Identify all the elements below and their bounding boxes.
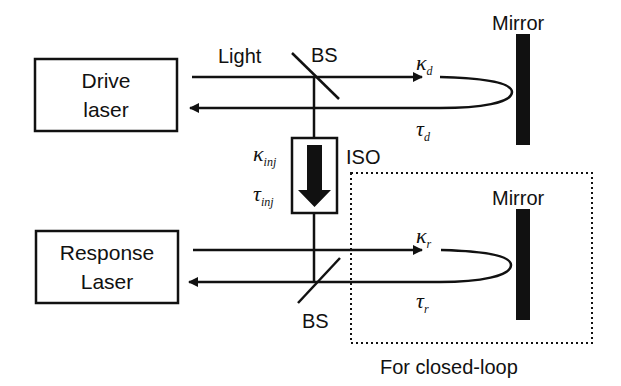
mirror-bottom-label: Mirror [492, 188, 544, 208]
response-laser-label-line2: Laser [36, 267, 178, 296]
bs-bottom-label: BS [302, 311, 329, 331]
mirror-top [516, 34, 530, 145]
kappa-d-label: κd [416, 52, 433, 77]
tau-r-label: τr [416, 290, 429, 315]
tau-d-label: τd [416, 118, 430, 143]
mirror-bottom [516, 209, 530, 320]
response-laser-label-line1: Response [36, 238, 178, 267]
drive-feedback-loop [190, 77, 512, 108]
drive-laser-label-line2: laser [35, 95, 177, 124]
tau-inj-label: τinj [253, 183, 274, 208]
beam-splitter-bottom [298, 258, 340, 303]
isolator-arrow-icon [298, 145, 331, 207]
optical-diagram: Drive laser Response Laser Light BS BS I… [0, 0, 621, 386]
iso-label: ISO [346, 147, 380, 167]
closed-loop-label: For closed-loop [380, 357, 518, 377]
kappa-inj-label: κinj [253, 143, 276, 168]
light-label: Light [218, 46, 261, 66]
closed-loop-region [351, 173, 592, 343]
bs-top-label: BS [311, 45, 338, 65]
response-laser-label: Response Laser [36, 238, 178, 296]
drive-laser-label: Drive laser [35, 66, 177, 124]
mirror-top-label: Mirror [492, 13, 544, 33]
drive-laser-label-line1: Drive [35, 66, 177, 95]
kappa-r-label: κr [416, 225, 431, 250]
